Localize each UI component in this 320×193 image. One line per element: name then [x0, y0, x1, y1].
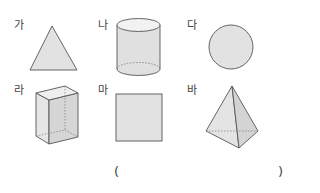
answer-close-paren: ): [278, 165, 283, 179]
triangle-shape: [30, 26, 77, 70]
rectangular-prism-shape: [36, 86, 78, 144]
square-shape: [116, 94, 162, 141]
answer-blank[interactable]: [124, 164, 274, 182]
triangular-pyramid-shape: [206, 86, 258, 148]
cylinder-shape: [117, 19, 160, 76]
circle-shape: [209, 25, 253, 69]
answer-open-paren: (: [114, 165, 119, 179]
